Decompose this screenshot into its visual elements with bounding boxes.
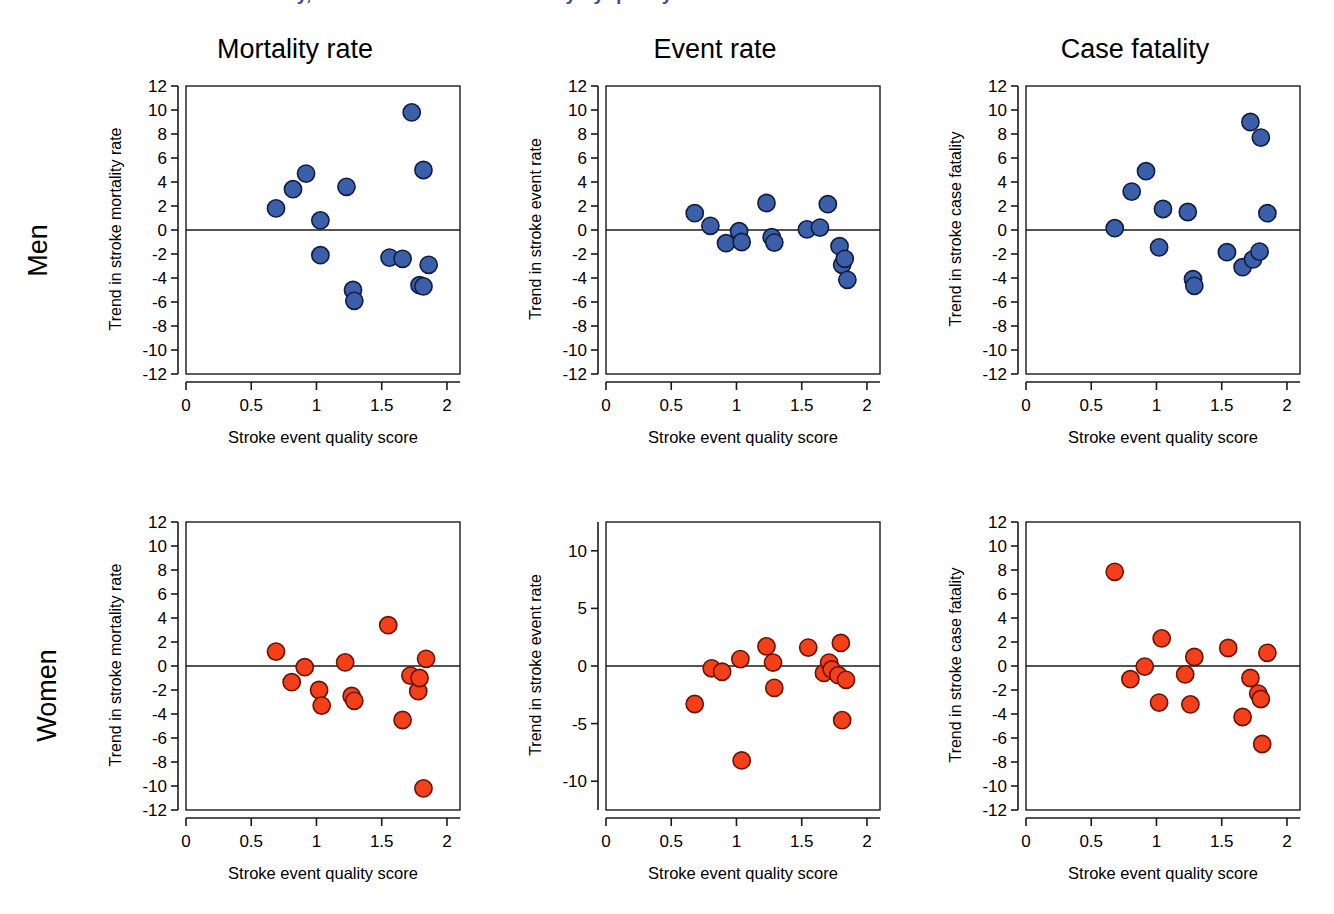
scatter-plot-area: 121086420-2-4-6-8-10-1200.511.52	[900, 34, 1320, 464]
y-tick-label: 12	[568, 77, 587, 96]
scatter-plot-area: 1050-5-1000.511.52	[480, 470, 900, 900]
data-point	[1182, 696, 1199, 713]
y-tick-label: 6	[998, 149, 1007, 168]
panel-women-fatality: Trend in stroke case fatalityStroke even…	[900, 470, 1320, 900]
y-tick-label: -6	[152, 293, 167, 312]
y-tick-label: 6	[158, 149, 167, 168]
data-point	[283, 674, 300, 691]
data-point	[732, 650, 749, 667]
y-tick-label: 0	[578, 221, 587, 240]
y-tick-label: -6	[572, 293, 587, 312]
data-point	[714, 663, 731, 680]
data-point	[284, 181, 301, 198]
data-point	[1186, 648, 1203, 665]
y-tick-label: 2	[158, 197, 167, 216]
x-tick-label: 0.5	[239, 832, 263, 851]
data-point	[415, 278, 432, 295]
y-tick-label: 0	[158, 221, 167, 240]
panel-women-mortality: Trend in stroke mortality rateStroke eve…	[60, 470, 480, 900]
y-tick-label: -12	[982, 801, 1007, 820]
y-tick-label: -8	[992, 753, 1007, 772]
y-tick-label: 0	[998, 657, 1007, 676]
y-tick-label: -6	[992, 729, 1007, 748]
data-point	[1259, 205, 1276, 222]
x-tick-label: 1.5	[370, 396, 394, 415]
data-point	[312, 247, 329, 264]
data-point	[411, 669, 428, 686]
figure-supertitle: Trends in stroke mortality, event rates …	[70, 0, 1270, 5]
data-point	[1242, 113, 1259, 130]
data-point	[839, 271, 856, 288]
data-point	[346, 292, 363, 309]
data-point	[403, 104, 420, 121]
data-point	[415, 780, 432, 797]
data-point	[1123, 183, 1140, 200]
data-point	[313, 697, 330, 714]
y-tick-label: -4	[572, 269, 587, 288]
data-point	[1137, 163, 1154, 180]
y-tick-label: -12	[982, 365, 1007, 384]
data-point	[267, 643, 284, 660]
y-tick-label: 2	[158, 633, 167, 652]
data-point	[1154, 200, 1171, 217]
data-point	[417, 650, 434, 667]
y-tick-label: -6	[992, 293, 1007, 312]
y-tick-label: -10	[562, 772, 587, 791]
row-label-men: Men	[23, 191, 54, 311]
data-point	[1153, 630, 1170, 647]
y-tick-label: 0	[158, 657, 167, 676]
y-tick-label: 4	[578, 173, 587, 192]
x-tick-label: 0.5	[659, 832, 683, 851]
data-point	[766, 679, 783, 696]
y-tick-label: -8	[152, 753, 167, 772]
data-point	[420, 256, 437, 273]
y-tick-label: 8	[998, 125, 1007, 144]
y-tick-label: -2	[152, 681, 167, 700]
data-point	[394, 250, 411, 267]
data-point	[832, 634, 849, 651]
x-tick-label: 1	[732, 832, 741, 851]
data-point	[686, 205, 703, 222]
data-point	[346, 692, 363, 709]
y-tick-label: -8	[152, 317, 167, 336]
data-point	[837, 671, 854, 688]
y-tick-label: -10	[562, 341, 587, 360]
data-point	[1251, 243, 1268, 260]
x-tick-label: 0	[1021, 396, 1030, 415]
y-tick-label: 4	[158, 609, 167, 628]
x-tick-label: 2	[862, 396, 871, 415]
y-tick-label: 4	[998, 173, 1007, 192]
y-tick-label: 4	[998, 609, 1007, 628]
data-point	[702, 217, 719, 234]
y-tick-label: -6	[152, 729, 167, 748]
y-tick-label: 10	[988, 537, 1007, 556]
data-point	[394, 711, 411, 728]
panel-men-fatality: Case fatalityTrend in stroke case fatali…	[900, 34, 1320, 464]
x-tick-label: 0	[601, 832, 610, 851]
y-tick-label: 10	[568, 101, 587, 120]
y-tick-label: -2	[992, 245, 1007, 264]
y-tick-label: -4	[152, 269, 167, 288]
data-point	[312, 212, 329, 229]
x-tick-label: 1	[1152, 396, 1161, 415]
y-tick-label: -2	[152, 245, 167, 264]
y-tick-label: -8	[572, 317, 587, 336]
x-tick-label: 0.5	[659, 396, 683, 415]
data-point	[1179, 203, 1196, 220]
data-point	[811, 219, 828, 236]
data-point	[766, 234, 783, 251]
x-tick-label: 1	[732, 396, 741, 415]
data-point	[267, 200, 284, 217]
y-tick-label: 10	[148, 101, 167, 120]
y-tick-label: 12	[988, 513, 1007, 532]
y-tick-label: 6	[158, 585, 167, 604]
data-point	[1242, 669, 1259, 686]
y-tick-label: -10	[982, 777, 1007, 796]
data-point	[1136, 658, 1153, 675]
x-tick-label: 2	[1282, 832, 1291, 851]
y-tick-label: 4	[158, 173, 167, 192]
data-point	[836, 250, 853, 267]
data-point	[338, 178, 355, 195]
scatter-plot-area: 121086420-2-4-6-8-10-1200.511.52	[900, 470, 1320, 900]
panel-men-event: Event rateTrend in stroke event rateStro…	[480, 34, 900, 464]
